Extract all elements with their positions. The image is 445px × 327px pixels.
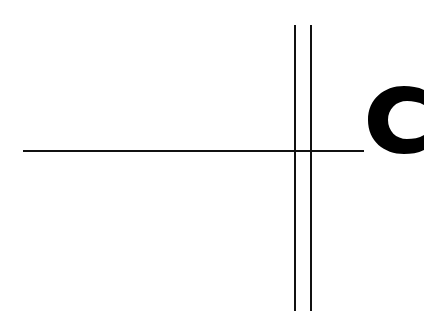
letter-c-glyph [364, 80, 428, 160]
vertical-line-right [310, 25, 312, 311]
vertical-line-left [294, 25, 296, 311]
horizontal-line [23, 150, 364, 152]
label-c: C [364, 80, 428, 160]
